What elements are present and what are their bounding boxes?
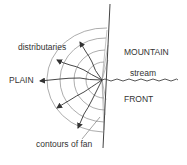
distributary-arrows xyxy=(40,42,102,128)
mountain-front-line xyxy=(103,4,110,148)
alluvial-fan-diagram: distributaries PLAIN MOUNTAIN stream FRO… xyxy=(0,0,187,165)
label-stream: stream xyxy=(130,69,156,78)
label-mountain: MOUNTAIN xyxy=(124,48,169,57)
label-distributaries: distributaries xyxy=(18,43,66,52)
label-plain: PLAIN xyxy=(9,76,34,85)
stream-line xyxy=(102,79,178,81)
label-front: FRONT xyxy=(124,95,153,104)
label-contours-of-fan: contours of fan xyxy=(36,140,92,149)
